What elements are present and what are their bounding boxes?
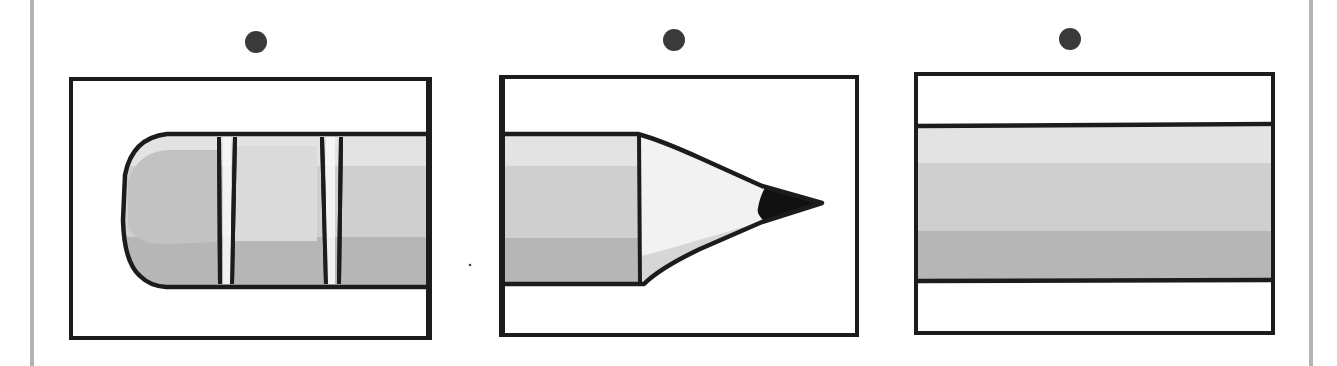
panel-sharpened-tip <box>501 29 857 335</box>
pencil-end-body <box>110 134 440 297</box>
marker-dot <box>245 31 267 53</box>
marker-dot <box>1059 28 1081 50</box>
pencil-illustration <box>0 0 1337 366</box>
body-top-edge <box>916 124 1273 126</box>
pencil-body-stripes <box>918 127 1271 280</box>
panel-middle-body <box>916 28 1273 333</box>
ferrule-edge <box>639 134 640 284</box>
stray-dot <box>469 264 472 267</box>
panel-eraser-end <box>71 31 440 338</box>
pencil-body-segment <box>503 134 639 284</box>
marker-dot <box>663 29 685 51</box>
body-bottom-edge <box>916 280 1273 281</box>
